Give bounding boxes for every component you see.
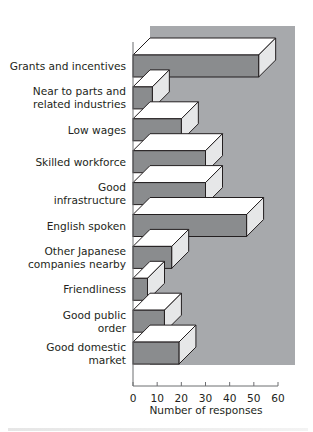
category-labels: Grants and incentivesNear to parts andre… (10, 60, 127, 366)
x-tick-label: 20 (175, 392, 189, 404)
category-label: Grants and incentives (10, 60, 126, 72)
category-label: order (98, 322, 127, 334)
category-label: English spoken (47, 220, 126, 232)
x-tick-label: 10 (150, 392, 164, 404)
x-tick-label: 30 (199, 392, 213, 404)
bar-top-face (133, 198, 264, 215)
category-label: Friendliness (63, 283, 126, 295)
category-label: companies nearby (28, 258, 126, 270)
x-tick-label: 0 (130, 392, 137, 404)
bar-chart: Grants and incentivesNear to parts andre… (0, 0, 313, 432)
category-label: Other Japanese (44, 245, 126, 257)
x-tick-label: 60 (271, 392, 285, 404)
bar-front-face (133, 278, 148, 300)
category-label: Good public (63, 309, 126, 321)
x-tick-label: 40 (223, 392, 237, 404)
category-label: market (88, 354, 126, 366)
category-label: Good (98, 181, 126, 193)
bar-front-face (133, 342, 179, 364)
bar-top-face (133, 38, 276, 55)
category-label: Low wages (68, 124, 126, 136)
category-label: infrastructure (54, 194, 126, 206)
category-label: Near to parts and (33, 85, 126, 97)
category-label: Skilled workforce (35, 156, 126, 168)
x-tick-label: 50 (247, 392, 261, 404)
category-label: Good domestic (46, 341, 126, 353)
x-axis-title: Number of responses (149, 404, 262, 416)
bottom-rule (8, 428, 308, 431)
category-label: related industries (33, 98, 126, 110)
